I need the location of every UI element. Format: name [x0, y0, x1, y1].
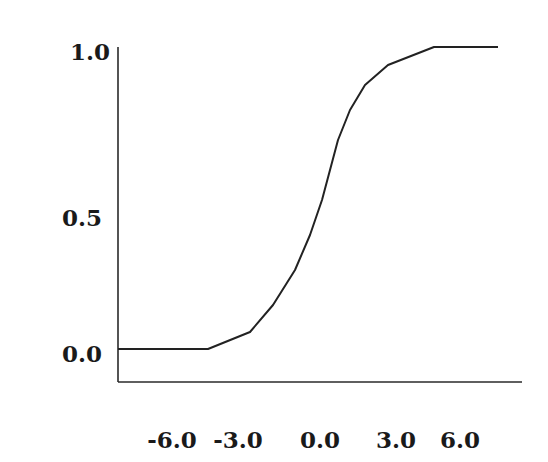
y-tick-label: 1.0: [70, 38, 110, 65]
x-tick-labels: -6.0 -3.0 0.0 3.0 6.0: [147, 426, 480, 453]
y-tick-label: 0.5: [62, 204, 102, 231]
x-tick-label: -3.0: [213, 426, 263, 453]
x-tick-label: 3.0: [376, 426, 416, 453]
x-tick-label: 6.0: [440, 426, 480, 453]
x-tick-label: -6.0: [147, 426, 197, 453]
x-tick-label: 0.0: [300, 426, 340, 453]
sigmoid-line-chart: 1.0 0.5 0.0 -6.0 -3.0 0.0 3.0 6.0: [0, 0, 548, 462]
y-tick-label: 0.0: [62, 340, 102, 367]
sigmoid-curve: [118, 47, 498, 349]
y-tick-labels: 1.0 0.5 0.0: [62, 38, 110, 367]
